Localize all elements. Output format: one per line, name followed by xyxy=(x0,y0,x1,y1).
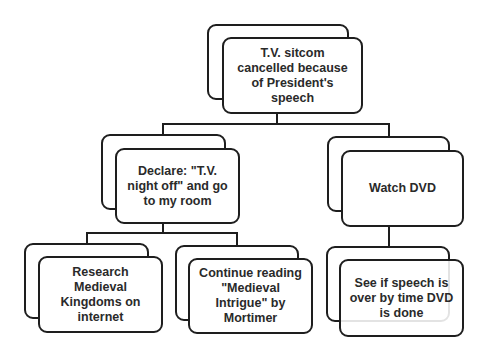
node-research-box: Research Medieval Kingdoms on internet xyxy=(38,256,163,333)
node-continue-reading-label: Continue reading "Medieval Intrigue" by … xyxy=(199,266,302,326)
connector-to-watch-dvd xyxy=(388,123,390,137)
node-root-box: T.V. sitcom cancelled because of Preside… xyxy=(222,37,363,114)
node-declare-box: Declare: "T.V. night off" and go to my r… xyxy=(115,148,240,224)
node-declare-label: Declare: "T.V. night off" and go to my r… xyxy=(127,164,227,209)
node-continue-reading-box: Continue reading "Medieval Intrigue" by … xyxy=(188,258,313,334)
node-see-if-box: See if speech is over by time DVD is don… xyxy=(339,259,464,337)
connector-level2-bar xyxy=(162,123,390,125)
node-research-label: Research Medieval Kingdoms on internet xyxy=(61,265,141,325)
node-root-label: T.V. sitcom cancelled because of Preside… xyxy=(237,46,347,106)
connector-to-continue-reading xyxy=(236,232,238,246)
node-watch-dvd-box: Watch DVD xyxy=(341,150,464,227)
decision-tree-diagram: T.V. sitcom cancelled because of Preside… xyxy=(0,0,485,357)
connector-level3-left-bar xyxy=(86,232,238,234)
node-see-if-label: See if speech is over by time DVD is don… xyxy=(350,276,454,321)
connector-watch-dvd-down xyxy=(388,225,390,247)
node-watch-dvd-label: Watch DVD xyxy=(369,181,436,196)
